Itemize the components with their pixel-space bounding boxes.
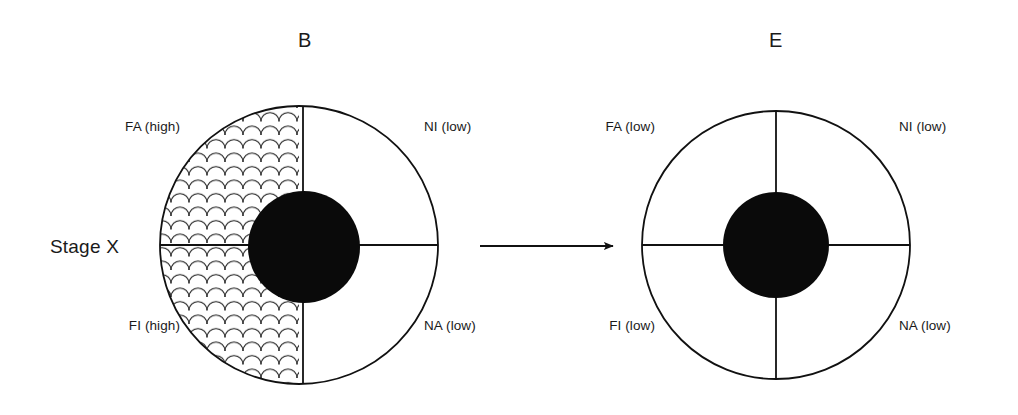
panel-E-label-NA: NA (low) [899, 318, 951, 333]
panel-E-core-circle [723, 192, 829, 298]
panel-B-graphic [150, 96, 438, 396]
panel-B-label-FI: FI (high) [129, 318, 180, 333]
stage-row-label: Stage X [50, 236, 119, 258]
panel-B-core-circle [248, 191, 360, 303]
panel-E-graphic [642, 111, 910, 379]
panel-B-label-FA: FA (high) [125, 119, 180, 134]
panel-E-label-NI: NI (low) [899, 119, 946, 134]
panel-B-label-NI: NI (low) [424, 119, 471, 134]
figure-canvas: Stage X B FA (high) NI (low) FI (high) N… [0, 0, 1018, 415]
panel-E-label-FI: FI (low) [609, 318, 655, 333]
diagram-svg [0, 0, 1018, 415]
panel-title-E: E [769, 29, 783, 52]
panel-title-B: B [298, 29, 312, 52]
panel-B-label-NA: NA (low) [424, 318, 476, 333]
panel-E-label-FA: FA (low) [605, 119, 655, 134]
